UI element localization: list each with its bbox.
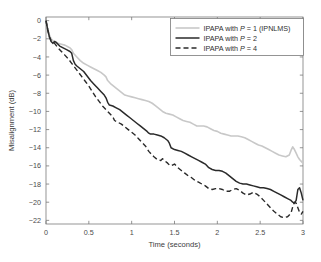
chart-figure: 00.511.522.530−2−4−6−8−10−12−14−16−18−20… bbox=[0, 0, 321, 262]
legend: IPAPA with P = 1 (IPNLMS)IPAPA with P = … bbox=[171, 19, 304, 56]
y-tick-label: −4 bbox=[33, 53, 41, 62]
x-tick-label: 0 bbox=[44, 228, 48, 237]
x-tick-label: 3 bbox=[301, 228, 305, 237]
y-tick-label: −2 bbox=[33, 34, 41, 43]
x-tick-label: 2.5 bbox=[255, 228, 265, 237]
y-axis-title: Misalignment (dB) bbox=[7, 89, 16, 151]
x-tick-label: 1.5 bbox=[170, 228, 180, 237]
y-tick-label: −12 bbox=[29, 125, 41, 134]
y-tick-label: −20 bbox=[29, 198, 41, 207]
y-tick-label: −6 bbox=[33, 71, 41, 80]
legend-label-2: IPAPA with P = 2 bbox=[204, 34, 257, 43]
x-tick-label: 0.5 bbox=[84, 228, 94, 237]
legend-label-3: IPAPA with P = 4 bbox=[204, 44, 257, 53]
y-tick-label: −22 bbox=[29, 216, 41, 225]
y-tick-label: 0 bbox=[37, 16, 41, 25]
legend-label-1: IPAPA with P = 1 (IPNLMS) bbox=[204, 24, 291, 33]
x-axis-title: Time (seconds) bbox=[148, 240, 201, 249]
y-tick-label: −8 bbox=[33, 89, 41, 98]
y-tick-label: −18 bbox=[29, 180, 41, 189]
y-tick-label: −16 bbox=[29, 161, 41, 170]
y-tick-label: −10 bbox=[29, 107, 41, 116]
y-tick-label: −14 bbox=[29, 143, 41, 152]
x-tick-label: 1 bbox=[130, 228, 134, 237]
misalignment-line-chart: 00.511.522.530−2−4−6−8−10−12−14−16−18−20… bbox=[0, 0, 321, 262]
x-tick-label: 2 bbox=[215, 228, 219, 237]
